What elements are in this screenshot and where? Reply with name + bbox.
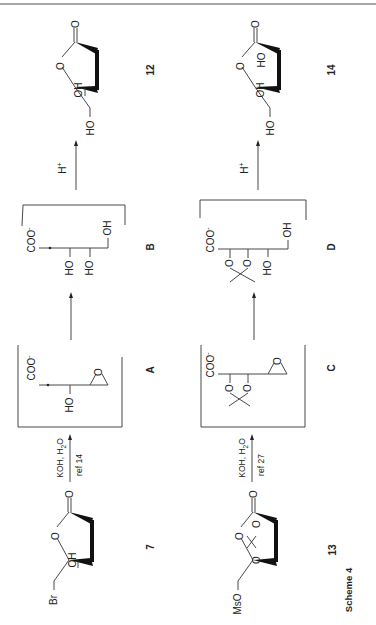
compound-12: O O OH HO [55,20,99,136]
arrow-A-to-B [69,292,73,340]
carboxylate: COO- [25,227,37,253]
acetonide-oxygen-1: O [251,520,262,528]
scheme-page: O O OH HO 12 H+ COO- HO HO OH B [0,0,376,625]
scheme-caption: Scheme 4 [343,567,354,612]
intermediate-D: COO- O O HO OH [204,223,293,283]
carboxylate: COO- [204,227,216,253]
intermediate-A: COO- HO O [25,355,108,413]
reagent-label: KOH, H2O [237,438,249,478]
compound-label-14: 14 [326,64,337,76]
ring-oxygen: O [50,532,61,540]
hydroxyl-terminal: OH [282,223,293,238]
hydroxyl-1: HO [64,260,75,275]
compound-13: O O O O MsO [232,490,278,615]
compound-14: O O HO OH HO [235,20,281,136]
carbonyl-oxygen: O [64,490,75,498]
arrow-C-to-D [252,292,256,340]
compound-label-C: C [326,364,337,371]
intermediate-C: COO- O O O [204,352,287,406]
mesylate: MsO [232,593,243,614]
reference-label: ref 14 [74,454,84,476]
reference-label: ref 27 [256,454,266,476]
arrow-acid-row2: H+ [238,140,260,190]
compound-label-7: 7 [145,544,156,550]
ring-oxygen: O [234,532,245,540]
ring-oxygen: O [55,62,66,70]
hydroxymethyl: HO [85,120,96,135]
carbonyl-oxygen: O [248,490,259,498]
hydroxyl-terminal: OH [102,221,113,236]
compound-label-12: 12 [145,64,156,76]
arrow-koh-row1: KOH, H2O ref 14 [55,434,84,482]
epoxide-oxygen: O [272,357,283,365]
carbonyl-oxygen: O [70,20,81,28]
acetonide-oxygen-2: O [242,259,253,267]
reaction-scheme: O O OH HO 12 H+ COO- HO HO OH B [0,0,376,625]
compound-7: O O OH Br [48,490,94,605]
bromine: Br [48,594,59,605]
compound-label-D: D [326,243,337,250]
reagent-label: KOH, H2O [55,438,67,478]
hydroxymethyl: HO [265,120,276,135]
compound-label-13: 13 [327,544,338,556]
svg-text:H+: H+ [56,162,68,173]
compound-label-B: B [145,243,156,250]
epoxide-oxygen: O [93,368,104,376]
hydroxyl-2: HO [84,260,95,275]
carboxylate: COO- [25,355,37,381]
acetonide-oxygen-2: O [242,384,253,392]
compound-label-A: A [145,366,156,373]
intermediate-B: COO- HO HO OH [25,221,113,276]
arrow-acid-row1: H+ [56,140,78,190]
arrow-koh-row2: KOH, H2O ref 27 [237,434,266,482]
svg-text:H+: H+ [238,162,250,173]
ring-hydroxyl: OH [73,83,84,98]
ring-hydroxyl-2: HO [256,52,267,67]
ring-oxygen: O [235,62,246,70]
carboxylate: COO- [204,352,216,378]
hydroxyl: HO [64,397,75,412]
acetonide-oxygen-1: O [224,384,235,392]
acetonide-oxygen-1: O [224,259,235,267]
hydroxyl: HO [262,260,273,275]
carbonyl-oxygen: O [250,20,261,28]
